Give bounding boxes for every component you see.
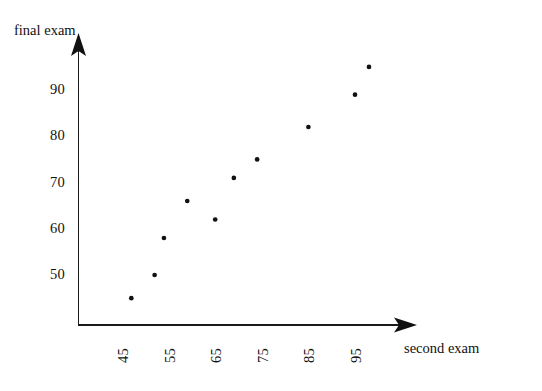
- data-point: [367, 65, 372, 70]
- x-tick-label: 45: [115, 348, 132, 363]
- data-point: [213, 217, 218, 222]
- data-point: [185, 199, 190, 204]
- data-point: [162, 236, 167, 241]
- y-axis-title: final exam: [14, 22, 76, 39]
- y-tick-label: 60: [25, 220, 65, 237]
- data-point: [353, 92, 358, 97]
- x-tick-label: 55: [162, 348, 179, 363]
- x-tick-label: 85: [301, 348, 318, 363]
- plot-canvas: [0, 0, 542, 391]
- data-point: [306, 125, 311, 130]
- x-tick-label: 95: [348, 348, 365, 363]
- x-tick-label: 65: [208, 348, 225, 363]
- y-tick-label: 80: [25, 127, 65, 144]
- x-tick-label: 75: [255, 348, 272, 363]
- data-point: [152, 273, 157, 278]
- x-axis-title: second exam: [404, 340, 479, 357]
- y-tick-label: 50: [25, 266, 65, 283]
- scatter-plot-figure: 50 60 70 80 90 45 55 65 75 85 95 final e…: [0, 0, 542, 391]
- y-tick-label: 90: [25, 81, 65, 98]
- data-point: [129, 296, 134, 301]
- data-point: [255, 157, 260, 162]
- data-point: [232, 176, 237, 181]
- y-tick-label: 70: [25, 174, 65, 191]
- data-points-layer: [129, 65, 371, 301]
